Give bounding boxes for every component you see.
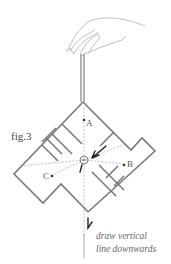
point-label-b: B (127, 159, 133, 169)
figure-label: fig.3 (11, 130, 31, 142)
floor-plan (14, 102, 155, 212)
string (81, 54, 84, 102)
point-label-c: C (43, 171, 49, 181)
caption-line-2: line downwards (96, 244, 156, 254)
hand-icon (66, 18, 145, 56)
point-label-a: A (86, 118, 93, 128)
caption-line-1: draw vertical (96, 231, 147, 241)
